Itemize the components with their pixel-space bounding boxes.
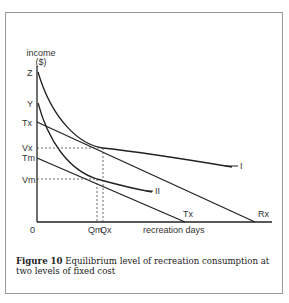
label-y: Y <box>27 99 33 109</box>
budget-line-tm-tx <box>37 158 185 222</box>
origin-label: 0 <box>30 225 35 235</box>
label-rx: Rx <box>258 209 269 219</box>
label-tx-x: Tx <box>183 209 193 219</box>
label-curve-i: I <box>240 161 243 171</box>
indifference-curve-i <box>38 72 232 167</box>
label-tx-y: Tx <box>22 118 32 128</box>
y-axis-unit: ($) <box>36 57 47 67</box>
label-qx: Qx <box>100 225 112 235</box>
label-tm: Tm <box>22 153 35 163</box>
label-vm: Vm <box>22 175 36 185</box>
label-vx: Vx <box>22 143 33 153</box>
figure-number: Figure 10 <box>16 256 63 266</box>
label-curve-ii: II <box>155 186 160 196</box>
label-z: Z <box>27 68 33 78</box>
figure-caption: Figure 10 Equilibrium level of recreatio… <box>16 256 278 276</box>
x-axis-label: recreation days <box>143 225 205 235</box>
